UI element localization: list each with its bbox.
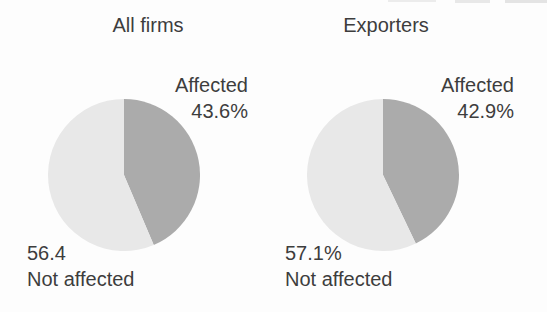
label-affected-exporters: Affected 42.9% [364,72,514,124]
slice-value-text: 42.9% [364,98,514,124]
scan-artifact-strip [455,0,490,3]
label-not-affected-all-firms: 56.4 Not affected [27,240,217,292]
slice-value-text: 43.6% [98,98,248,124]
label-affected-all-firms: Affected 43.6% [98,72,248,124]
slice-label-text: Not affected [27,266,217,292]
slice-label-text: Affected [98,72,248,98]
label-not-affected-exporters: 57.1% Not affected [285,240,475,292]
scan-artifact-strip [388,0,436,2]
slice-label-text: Affected [364,72,514,98]
scan-artifact-strip [505,0,547,3]
slice-label-text: Not affected [285,266,475,292]
pie-chart-figure: All firms Affected 43.6% 56.4 Not affect… [0,0,547,312]
chart-title-exporters: Exporters [286,12,486,38]
slice-value-text: 57.1% [285,240,475,266]
slice-value-text: 56.4 [27,240,217,266]
chart-title-all-firms: All firms [48,12,248,38]
